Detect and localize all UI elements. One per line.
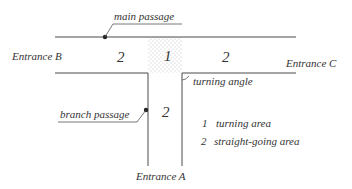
area-number-left-straight: 2 [117, 49, 125, 65]
legend-item-2-text: straight-going area [214, 135, 300, 147]
legend-item-1-number: 1 [202, 117, 208, 129]
area-number-turning: 1 [164, 48, 172, 64]
area-number-right-straight: 2 [222, 49, 230, 65]
entrance-c-label: Entrance C [285, 57, 337, 69]
t-junction-diagram: main passage branch passage turning angl… [0, 0, 352, 189]
entrance-b-label: Entrance B [11, 50, 62, 62]
main-passage-leader-line [105, 24, 182, 37]
branch-passage-label: branch passage [60, 108, 129, 120]
entrance-a-label: Entrance A [135, 170, 186, 182]
legend: 1 turning area 2 straight-going area [201, 117, 300, 147]
turning-angle-arc [182, 76, 189, 80]
turning-angle-label: turning angle [193, 75, 253, 87]
main-passage-label: main passage [114, 10, 174, 22]
legend-item-1-text: turning area [216, 117, 271, 129]
legend-item-2-number: 2 [201, 135, 207, 147]
area-number-branch-straight: 2 [162, 104, 170, 120]
